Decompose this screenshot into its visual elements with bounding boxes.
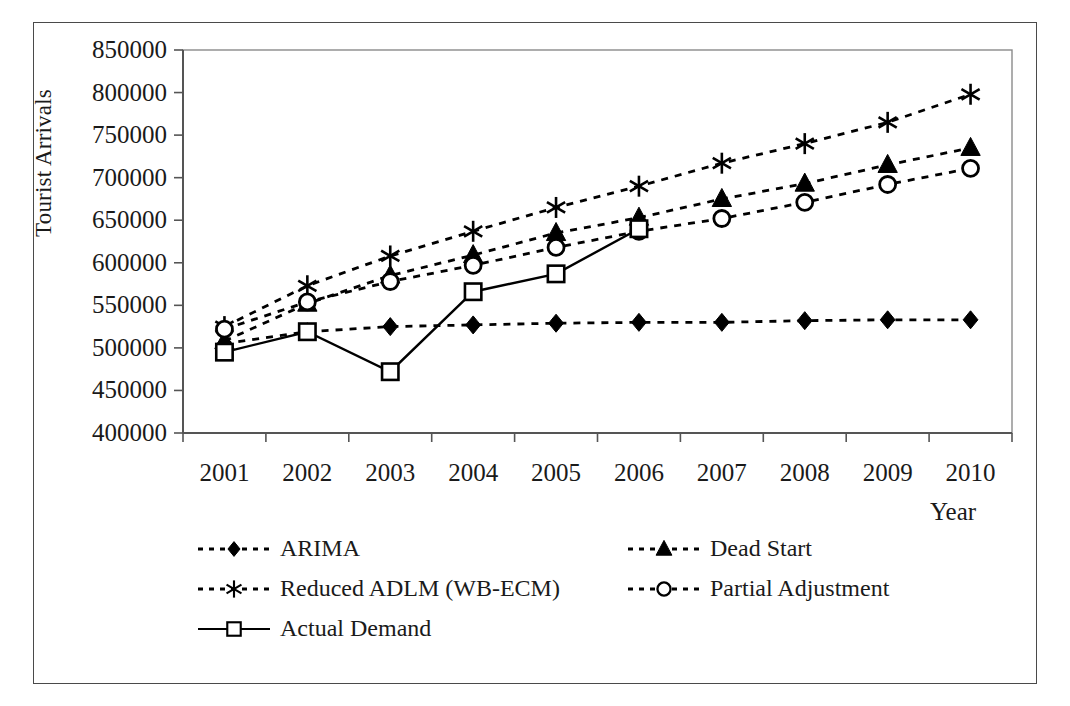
y-axis-tick-label: 850000 <box>92 37 167 62</box>
legend-label: ARIMA <box>272 535 360 562</box>
data-point-marker <box>228 542 240 557</box>
chart-figure: Tourist Arrivals Year 400000450000500000… <box>0 0 1070 706</box>
legend-key-swatch <box>196 617 272 641</box>
y-axis-tick-label: 750000 <box>92 122 167 147</box>
y-axis-tick-label: 450000 <box>92 377 167 402</box>
legend-row: Actual Demand <box>196 608 956 648</box>
legend-key-swatch <box>626 577 702 601</box>
diamond-marker <box>228 542 240 557</box>
data-point-marker <box>227 622 240 635</box>
data-point-marker <box>227 580 242 597</box>
legend-key-swatch <box>196 577 272 601</box>
legend-key <box>196 577 272 599</box>
legend-row: ARIMADead Start <box>196 528 956 568</box>
data-point-marker <box>657 582 670 595</box>
data-point-marker <box>656 540 672 555</box>
chart-legend: ARIMADead StartReduced ADLM (WB-ECM)Part… <box>196 528 956 648</box>
legend-key <box>626 537 702 559</box>
legend-item[interactable]: Partial Adjustment <box>626 575 889 602</box>
legend-key-swatch <box>196 537 272 561</box>
legend-item[interactable]: Dead Start <box>626 535 812 562</box>
legend-row: Reduced ADLM (WB-ECM)Partial Adjustment <box>196 568 956 608</box>
y-axis-title: Tourist Arrivals <box>31 63 57 263</box>
legend-key <box>196 617 272 639</box>
legend-label: Reduced ADLM (WB-ECM) <box>272 575 560 602</box>
y-axis-tick-label: 600000 <box>92 250 167 275</box>
legend-key-swatch <box>626 537 702 561</box>
y-axis-tick-label: 800000 <box>92 80 167 105</box>
x-axis-title: Year <box>930 498 976 526</box>
y-axis-tick-label: 500000 <box>92 335 167 360</box>
x-axis-tick-label: 2010 <box>921 460 1021 485</box>
y-axis-tick-label: 400000 <box>92 420 167 445</box>
legend-label: Dead Start <box>702 535 812 562</box>
triangle-marker <box>656 540 672 555</box>
circle-marker <box>657 582 670 595</box>
y-axis-tick-label: 550000 <box>92 292 167 317</box>
legend-item[interactable]: Actual Demand <box>196 615 431 642</box>
y-axis-tick-label: 700000 <box>92 165 167 190</box>
legend-item[interactable]: Reduced ADLM (WB-ECM) <box>196 575 626 602</box>
legend-label: Partial Adjustment <box>702 575 889 602</box>
legend-item[interactable]: ARIMA <box>196 535 626 562</box>
legend-key <box>196 537 272 559</box>
legend-label: Actual Demand <box>272 615 431 642</box>
y-axis-tick-label: 650000 <box>92 207 167 232</box>
square-marker <box>227 622 240 635</box>
legend-key <box>626 577 702 599</box>
